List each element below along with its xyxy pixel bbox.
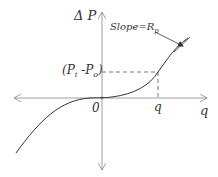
x-axis-label: q — [200, 104, 208, 117]
y-axis-label: Δ P — [74, 9, 96, 22]
tangent-line — [174, 37, 190, 52]
origin-label: 0 — [92, 102, 100, 114]
q-marker-label: q — [154, 101, 162, 113]
slope-label: Slope=Rp — [110, 22, 159, 35]
pressure-difference-label: (Pi -Po) — [62, 64, 103, 79]
slope-leader — [155, 32, 183, 46]
diagram-graphics — [0, 0, 218, 177]
pressure-flow-diagram: Δ P Slope=Rp (Pi -Po) 0 q q — [0, 0, 218, 177]
